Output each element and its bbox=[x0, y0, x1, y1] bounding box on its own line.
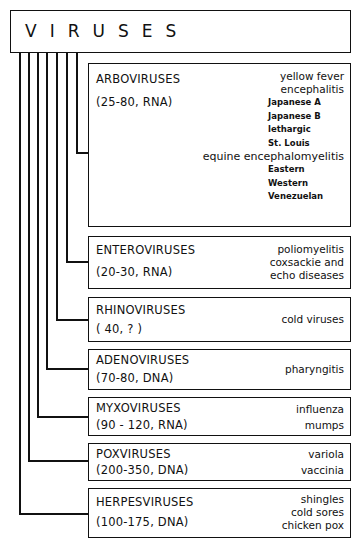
connector-herpes-horizontal bbox=[19, 513, 89, 515]
group-box-adenoviruses: ADENOVIRUSES (70-80, DNA) pharyngitis bbox=[88, 349, 351, 390]
connector-entero-vertical bbox=[66, 53, 68, 263]
disease-list: influenza mumps bbox=[296, 403, 344, 432]
disease-subtype: Venezuelan bbox=[94, 190, 344, 204]
disease-item: shingles bbox=[282, 493, 344, 506]
group-box-enteroviruses: ENTEROVIRUSES (20-30, RNA) poliomyelitis… bbox=[88, 236, 351, 289]
disease-item: encephalitis bbox=[94, 83, 344, 96]
disease-list: cold viruses bbox=[281, 313, 344, 326]
disease-list: variola vaccinia bbox=[301, 448, 344, 477]
disease-item: pharyngitis bbox=[285, 363, 344, 376]
group-size: (200-350, DNA) bbox=[96, 463, 188, 477]
group-name: ENTEROVIRUSES bbox=[96, 243, 195, 257]
group-box-myxoviruses: MYXOVIRUSES (90 - 120, RNA) influenza mu… bbox=[88, 397, 351, 436]
disease-item: yellow fever bbox=[94, 70, 344, 83]
connector-adeno-vertical bbox=[46, 53, 48, 370]
disease-list: shingles cold sores chicken pox bbox=[282, 493, 344, 532]
disease-item: vaccinia bbox=[301, 464, 344, 477]
disease-subtype: Western bbox=[94, 177, 344, 191]
disease-item: echo diseases bbox=[270, 269, 344, 282]
connector-pox-vertical bbox=[28, 53, 30, 462]
disease-item: coxsackie and bbox=[270, 256, 344, 269]
disease-list: pharyngitis bbox=[285, 363, 344, 376]
group-name: RHINOVIRUSES bbox=[96, 303, 185, 317]
connector-myxo-horizontal bbox=[37, 416, 89, 418]
group-size: ( 40, ? ) bbox=[96, 322, 142, 336]
group-box-arboviruses: ARBOVIRUSES (25-80, RNA) yellow fever en… bbox=[88, 63, 351, 227]
disease-subtype: Eastern bbox=[94, 163, 344, 177]
disease-subtype: St. Louis bbox=[94, 137, 344, 151]
disease-item: chicken pox bbox=[282, 519, 344, 532]
group-box-rhinoviruses: RHINOVIRUSES ( 40, ? ) cold viruses bbox=[88, 297, 351, 342]
group-box-herpesviruses: HERPESVIRUSES (100-175, DNA) shingles co… bbox=[88, 488, 351, 538]
disease-item: influenza bbox=[296, 403, 344, 416]
connector-pox-horizontal bbox=[28, 460, 89, 462]
disease-subtype: Japanese B bbox=[94, 110, 344, 124]
disease-list: yellow fever encephalitis Japanese A Jap… bbox=[94, 70, 344, 204]
group-name: POXVIRUSES bbox=[96, 447, 171, 461]
disease-item: mumps bbox=[296, 419, 344, 432]
group-size: (70-80, DNA) bbox=[96, 371, 173, 385]
connector-adeno-horizontal bbox=[46, 368, 89, 370]
connector-myxo-vertical bbox=[37, 53, 39, 418]
group-name: ADENOVIRUSES bbox=[96, 353, 189, 367]
disease-subtype: lethargic bbox=[94, 123, 344, 137]
root-title: VIRUSES bbox=[25, 21, 189, 41]
connector-arbo-vertical bbox=[76, 53, 78, 154]
group-size: (100-175, DNA) bbox=[96, 515, 188, 529]
group-box-poxviruses: POXVIRUSES (200-350, DNA) variola vaccin… bbox=[88, 443, 351, 481]
disease-item: poliomyelitis bbox=[270, 243, 344, 256]
disease-list: poliomyelitis coxsackie and echo disease… bbox=[270, 243, 344, 282]
root-box-viruses: VIRUSES bbox=[10, 10, 351, 53]
disease-item: variola bbox=[301, 448, 344, 461]
connector-rhino-horizontal bbox=[56, 319, 89, 321]
group-name: HERPESVIRUSES bbox=[96, 495, 194, 509]
disease-subtype: Japanese A bbox=[94, 96, 344, 110]
group-size: (20-30, RNA) bbox=[96, 265, 173, 279]
disease-item: equine encephalomyelitis bbox=[94, 150, 344, 163]
disease-item: cold sores bbox=[282, 506, 344, 519]
group-size: (90 - 120, RNA) bbox=[96, 418, 188, 432]
disease-item: cold viruses bbox=[281, 313, 344, 326]
connector-herpes-vertical bbox=[19, 53, 21, 515]
group-name: MYXOVIRUSES bbox=[96, 401, 181, 415]
connector-entero-horizontal bbox=[66, 261, 89, 263]
connector-rhino-vertical bbox=[56, 53, 58, 321]
